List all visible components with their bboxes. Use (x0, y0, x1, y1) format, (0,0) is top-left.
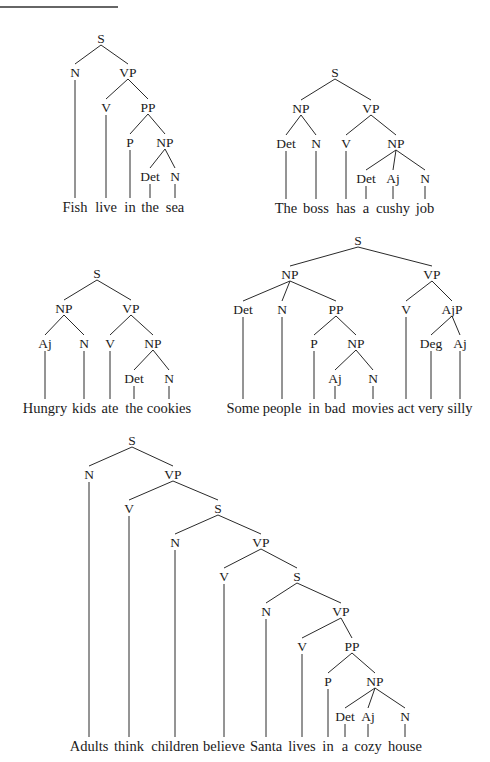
tree-branch (431, 316, 452, 335)
terminal-word: a (342, 738, 349, 754)
node-label-np: NP (144, 336, 161, 351)
tree-branch (128, 79, 148, 99)
node-label-n: N (164, 371, 174, 386)
node-label-s: S (97, 31, 105, 46)
node-label-p: P (310, 336, 318, 351)
tree-branch (89, 447, 132, 466)
tree-branch (286, 115, 301, 135)
terminal-word: Adults (70, 738, 109, 754)
node-label-det: Det (140, 169, 160, 184)
terminal-word: the (141, 199, 159, 215)
node-label-vp: VP (252, 535, 269, 550)
node-label-pp: PP (328, 302, 343, 317)
node-label-v: V (297, 639, 307, 654)
terminal-word: kids (72, 400, 97, 416)
node-label-pp: PP (140, 100, 155, 115)
node-label-aj: Aj (328, 371, 342, 386)
node-label-v: V (341, 136, 351, 151)
tree-branch (75, 45, 101, 64)
terminal-word: Some (226, 400, 259, 416)
tree-branch (130, 114, 148, 134)
node-label-n: N (170, 535, 180, 550)
node-label-p: P (126, 135, 134, 150)
terminal-word: job (415, 200, 435, 216)
terminal-word: ate (102, 400, 119, 416)
terminal-word: sea (166, 199, 185, 215)
tree-branch (301, 79, 335, 100)
terminal-word: cozy (354, 738, 382, 754)
node-label-v: V (401, 302, 411, 317)
tree-adults: SNVPVSNVPVSNVPVPPPNPDetAjNAdultsthinkchi… (70, 433, 422, 754)
terminal-word: live (95, 199, 117, 215)
tree-branch (432, 281, 452, 301)
terminal-word: people (263, 400, 302, 416)
terminal-word: the (125, 400, 143, 416)
tree-branch (101, 45, 128, 64)
node-label-v: V (101, 100, 111, 115)
node-label-np: NP (387, 136, 404, 151)
node-label-n: N (170, 169, 180, 184)
syntax-tree-figure: SNVPVPPPNPDetNFishliveintheseaSNPVPDetNV… (0, 0, 490, 762)
terminal-word: very (418, 400, 445, 416)
tree-branch (335, 350, 356, 370)
terminal-word: The (275, 200, 298, 216)
tree-branch (335, 79, 371, 100)
tree-branch (173, 481, 218, 500)
node-label-deg: Deg (420, 336, 443, 351)
tree-branch (368, 688, 375, 708)
trees-container: SNVPVPPPNPDetNFishliveintheseaSNPVPDetNV… (23, 31, 473, 754)
node-label-s: S (214, 501, 222, 516)
node-label-n: N (311, 136, 321, 151)
tree-branch (290, 281, 336, 301)
node-label-np: NP (55, 301, 72, 316)
terminal-word: in (322, 738, 334, 754)
tree-branch (452, 316, 460, 335)
node-label-n: N (420, 171, 430, 186)
terminal-word: Santa (250, 738, 283, 754)
node-label-np: NP (292, 101, 309, 116)
terminal-word: act (398, 400, 415, 416)
tree-branch (336, 316, 356, 335)
tree-branch (358, 247, 432, 266)
node-label-n: N (277, 302, 287, 317)
tree-branch (224, 549, 261, 568)
node-label-v: V (124, 501, 134, 516)
node-label-p: P (324, 674, 332, 689)
tree-branch (175, 515, 218, 534)
node-label-vp: VP (423, 267, 440, 282)
tree-branch (266, 583, 297, 603)
tree-fish: SNVPVPPPNPDetNFishliveinthesea (63, 31, 185, 215)
node-label-det: Det (124, 371, 144, 386)
tree-branch (366, 150, 396, 170)
tree-branch (131, 315, 153, 335)
tree-branch (129, 481, 173, 500)
tree-branch (345, 688, 375, 708)
tree-branch (148, 114, 165, 134)
node-label-vp: VP (164, 467, 181, 482)
node-label-n: N (70, 65, 80, 80)
node-label-n: N (261, 604, 271, 619)
terminal-word: Hungry (23, 400, 68, 416)
tree-branch (110, 315, 131, 335)
node-label-aj: Aj (38, 336, 52, 351)
terminal-word: cushy (376, 200, 411, 216)
tree-branch (218, 515, 261, 534)
node-label-np: NP (366, 674, 383, 689)
terminal-word: movies (352, 400, 394, 416)
node-label-vp: VP (122, 301, 139, 316)
tree-branch (45, 315, 64, 335)
tree-branch (64, 315, 84, 335)
terminal-word: bad (325, 400, 347, 416)
tree-branch (371, 115, 396, 135)
node-label-aj: Aj (453, 336, 467, 351)
terminal-word: lives (288, 738, 316, 754)
node-label-np: NP (347, 336, 364, 351)
node-label-v: V (219, 569, 229, 584)
terminal-word: house (388, 738, 422, 754)
tree-branch (150, 149, 165, 168)
node-label-vp: VP (119, 65, 136, 80)
node-label-det: Det (233, 302, 253, 317)
tree-branch (406, 281, 432, 301)
tree-branch (375, 688, 405, 708)
tree-branch (134, 350, 153, 370)
